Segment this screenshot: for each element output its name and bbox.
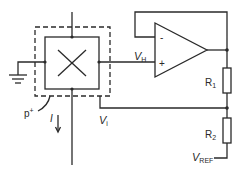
ground-icon [9, 75, 27, 83]
vi-label: Vi [99, 114, 108, 127]
node-dot [70, 35, 73, 38]
resistor-r2 [223, 118, 231, 143]
circuit-diagram: - + VH R1 R2 VREF p+ I Vi [0, 0, 239, 174]
opamp-minus-label: - [160, 32, 163, 43]
resistor-r1 [223, 68, 231, 93]
vref-label: VREF [192, 151, 213, 164]
r2-label: R2 [205, 129, 216, 141]
feedback-wire [135, 12, 227, 68]
vref-wire [214, 143, 227, 158]
p-plus-label: p+ [24, 107, 34, 119]
p-plus-pointer [38, 96, 50, 111]
r1-label: R1 [205, 77, 216, 89]
vi-wire [100, 96, 227, 108]
ground-wire [18, 62, 45, 75]
current-label: I [50, 113, 53, 124]
opamp-plus-label: + [159, 58, 165, 69]
vh-label: VH [134, 50, 146, 63]
